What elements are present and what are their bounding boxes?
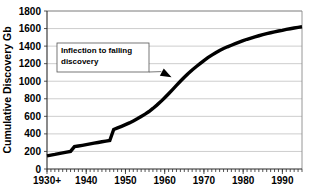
y-tick-label-1200: 1200 xyxy=(19,58,42,69)
x-tick-label-1940: 1940 xyxy=(75,175,98,186)
x-tick-label-1950: 1950 xyxy=(114,175,137,186)
cumulative-discovery-line-chart: 020040060080010001200140016001800 1930+1… xyxy=(0,0,310,190)
x-tick-label-1990: 1990 xyxy=(271,175,294,186)
x-tick-label-1930: 1930+ xyxy=(33,175,61,186)
annotation-text-line2: discovery xyxy=(61,57,99,66)
y-tick-label-200: 200 xyxy=(24,146,41,157)
y-tick-label-600: 600 xyxy=(24,111,41,122)
x-tick-label-1960: 1960 xyxy=(154,175,177,186)
chart-container: 020040060080010001200140016001800 1930+1… xyxy=(0,0,310,190)
y-axis-tick-labels: 020040060080010001200140016001800 xyxy=(19,6,42,175)
y-tick-label-800: 800 xyxy=(24,93,41,104)
x-tick-label-1970: 1970 xyxy=(193,175,216,186)
y-tick-label-1400: 1400 xyxy=(19,41,42,52)
y-tick-label-1600: 1600 xyxy=(19,23,42,34)
annotation-text-line1: Inflection to falling xyxy=(61,46,132,55)
y-tick-label-1800: 1800 xyxy=(19,6,42,17)
y-axis-title: Cumulative Discovery Gb xyxy=(1,26,13,153)
y-tick-label-0: 0 xyxy=(35,164,41,175)
y-tick-label-400: 400 xyxy=(24,128,41,139)
x-axis-tick-labels: 1930+194019501960197019801990 xyxy=(33,175,294,186)
y-tick-label-1000: 1000 xyxy=(19,76,42,87)
x-tick-label-1980: 1980 xyxy=(232,175,255,186)
